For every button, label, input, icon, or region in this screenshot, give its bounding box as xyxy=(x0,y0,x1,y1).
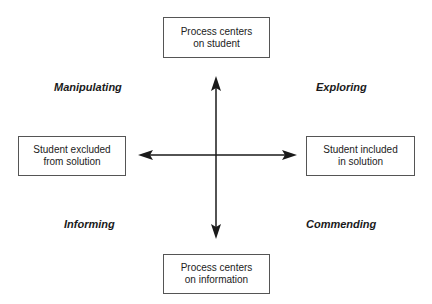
axis-box-left-line2: from solution xyxy=(33,156,110,168)
axis-box-right-line2: in solution xyxy=(323,156,398,168)
axis-box-bottom-line1: Process centers xyxy=(181,262,253,274)
quadrant-label-top-right: Exploring xyxy=(316,81,367,93)
axis-box-left-line1: Student excluded xyxy=(33,144,110,156)
axis-box-bottom-line2: on information xyxy=(181,274,253,286)
axis-box-top-line1: Process centers xyxy=(181,26,253,38)
quadrant-label-bottom-left: Informing xyxy=(64,218,115,230)
horizontal-axis-arrow xyxy=(138,150,297,160)
axis-box-top: Process centers on student xyxy=(163,17,270,58)
axis-box-bottom: Process centers on information xyxy=(163,254,270,294)
vertical-axis-arrow xyxy=(211,76,221,239)
axis-box-right: Student included in solution xyxy=(306,136,415,176)
axis-box-top-line2: on student xyxy=(181,38,253,50)
quadrant-label-bottom-right: Commending xyxy=(306,218,376,230)
axis-box-left: Student excluded from solution xyxy=(18,136,126,176)
quadrant-label-top-left: Manipulating xyxy=(54,81,122,93)
axis-box-right-line1: Student included xyxy=(323,144,398,156)
